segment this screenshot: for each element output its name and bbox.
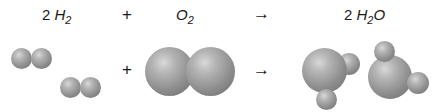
reactant-h2-label: 2 H2 bbox=[42, 6, 71, 23]
oxygen-atom-icon bbox=[368, 55, 412, 99]
element-symbol: H bbox=[55, 6, 66, 23]
oxygen-atom-icon bbox=[186, 47, 235, 96]
subscript: 2 bbox=[367, 14, 373, 26]
plus-sign: + bbox=[122, 5, 132, 25]
hydrogen-atom-icon bbox=[80, 77, 101, 98]
hydrogen-atom-icon bbox=[374, 41, 395, 62]
product-h2o-label: 2 H2O bbox=[344, 6, 385, 23]
subscript: 2 bbox=[188, 14, 194, 26]
coefficient: 2 bbox=[344, 6, 352, 23]
hydrogen-atom-icon bbox=[407, 72, 429, 94]
reaction-arrow-models: → bbox=[253, 60, 270, 80]
element-symbol: H bbox=[357, 6, 368, 23]
reaction-arrow: → bbox=[253, 4, 270, 24]
hydrogen-atom-icon bbox=[60, 77, 81, 98]
hydrogen-atom-icon bbox=[11, 48, 32, 69]
oxygen-atom-icon bbox=[302, 48, 347, 93]
coefficient: 2 bbox=[42, 6, 50, 23]
reactant-o2-label: O2 bbox=[176, 6, 194, 23]
hydrogen-atom-icon bbox=[31, 48, 52, 69]
element-symbol: O bbox=[176, 6, 188, 23]
element-symbol: O bbox=[373, 6, 385, 23]
subscript: 2 bbox=[65, 14, 71, 26]
hydrogen-atom-icon bbox=[316, 89, 337, 110]
plus-sign-models: + bbox=[122, 60, 132, 80]
